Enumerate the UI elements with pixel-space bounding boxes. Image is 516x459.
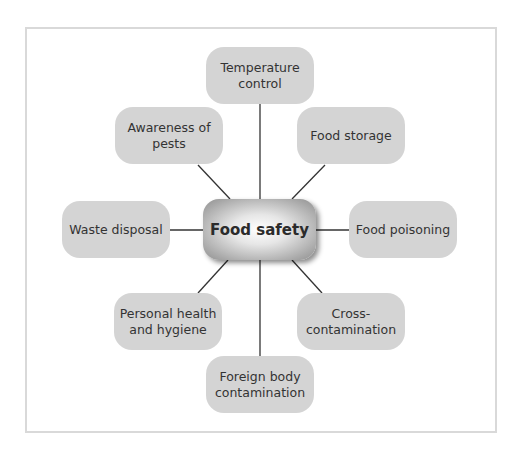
- node-label: Foreign body: [219, 369, 300, 384]
- node-food-poisoning: Food poisoning: [349, 201, 457, 258]
- node-waste-disposal: Waste disposal: [62, 201, 170, 258]
- node-label: Food poisoning: [356, 222, 450, 238]
- node-awareness-of-pests: Awareness ofpests: [115, 107, 223, 164]
- node-label: and hygiene: [129, 322, 207, 337]
- center-node-food-safety: Food safety: [203, 199, 316, 260]
- node-label: Awareness of: [127, 120, 210, 135]
- node-cross-contamination: Cross-contamination: [297, 293, 405, 350]
- node-label: Temperature: [220, 60, 299, 75]
- node-label: control: [238, 76, 281, 91]
- node-label: contamination: [306, 322, 396, 337]
- node-foreign-body-contamination: Foreign bodycontamination: [206, 356, 314, 413]
- node-label: Cross-: [332, 306, 371, 321]
- node-label: contamination: [215, 385, 305, 400]
- connector-storage: [292, 165, 325, 199]
- node-label: Food storage: [310, 128, 391, 144]
- node-label: pests: [152, 136, 186, 151]
- node-food-storage: Food storage: [297, 107, 405, 164]
- node-label: Personal health: [120, 306, 217, 321]
- node-personal-health-hygiene: Personal healthand hygiene: [114, 293, 222, 350]
- connector-personal: [198, 260, 228, 293]
- node-temperature-control: Temperaturecontrol: [206, 47, 314, 104]
- connector-cross: [292, 260, 322, 293]
- center-label: Food safety: [210, 221, 309, 239]
- connector-pests: [198, 165, 230, 199]
- node-label: Waste disposal: [69, 222, 162, 238]
